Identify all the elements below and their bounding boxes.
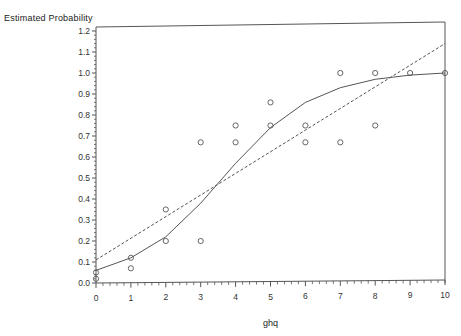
data-point-marker <box>373 70 378 75</box>
logistic-fit-curve <box>96 73 445 270</box>
data-point-marker <box>268 100 273 105</box>
y-tick-label: 1.0 <box>78 68 90 78</box>
data-point-marker <box>233 140 238 145</box>
x-tick-label: 7 <box>338 291 343 301</box>
data-point-marker <box>373 123 378 128</box>
linear-fit-line <box>96 44 445 260</box>
x-tick-label: 4 <box>233 292 238 302</box>
y-tick-label: 1.1 <box>78 47 90 57</box>
data-point-marker <box>303 123 308 128</box>
data-point-marker <box>198 238 203 243</box>
y-tick-label: 0.6 <box>78 152 90 162</box>
x-tick-label: 0 <box>94 293 99 303</box>
x-tick-label: 10 <box>440 290 450 300</box>
x-tick-label: 6 <box>303 291 308 301</box>
x-tick-label: 2 <box>163 292 168 302</box>
y-tick-label: 1.2 <box>78 26 90 36</box>
x-tick-label: 9 <box>408 290 413 300</box>
y-tick-label: 0.1 <box>78 257 90 267</box>
plot-border-top <box>96 22 445 27</box>
x-tick-label: 8 <box>373 291 378 301</box>
data-point-marker <box>303 140 308 145</box>
y-tick-label: 0.8 <box>78 110 90 120</box>
data-point-marker <box>163 238 168 243</box>
data-point-marker <box>338 70 343 75</box>
y-tick-label: 0.2 <box>78 236 90 246</box>
x-tick-label: 3 <box>198 292 203 302</box>
data-point-marker <box>338 140 343 145</box>
x-axis-title: ghq <box>263 318 278 328</box>
y-tick-label: 0.5 <box>78 173 90 183</box>
y-tick-label: 0.0 <box>78 278 90 288</box>
data-point-marker <box>198 140 203 145</box>
y-tick-label: 0.9 <box>78 89 90 99</box>
data-point-marker <box>128 266 133 271</box>
y-tick-label: 0.7 <box>78 131 90 141</box>
x-tick-label: 1 <box>129 293 134 303</box>
y-tick-label: 0.3 <box>78 215 90 225</box>
y-tick-label: 0.4 <box>78 194 90 204</box>
x-tick-label: 5 <box>268 292 273 302</box>
data-point-marker <box>163 207 168 212</box>
chart-plot: 0.00.10.20.30.40.50.60.70.80.91.01.11.20… <box>0 0 461 336</box>
data-point-marker <box>233 123 238 128</box>
